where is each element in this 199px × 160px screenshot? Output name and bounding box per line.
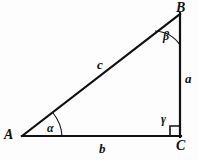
vertex-label-a: A [4, 128, 13, 142]
vertex-label-b: B [176, 1, 185, 15]
side-label-b: b [99, 142, 106, 155]
right-triangle-diagram: A B C a b c α β γ [0, 0, 199, 160]
side-label-a: a [185, 72, 192, 85]
vertex-label-c: C [176, 139, 185, 153]
angle-label-gamma: γ [161, 113, 166, 125]
triangle-figure [0, 0, 199, 160]
right-angle-marker [170, 126, 180, 136]
side-label-c: c [97, 58, 103, 71]
angle-label-beta: β [163, 30, 169, 42]
angle-alpha-arc [53, 113, 62, 136]
side-c-line [22, 14, 180, 136]
angle-label-alpha: α [47, 122, 54, 134]
